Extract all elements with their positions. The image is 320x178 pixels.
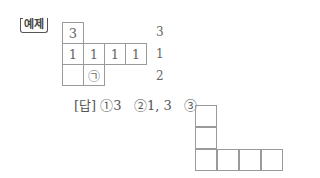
answer-grid-cell [239, 149, 261, 171]
answer-grid-cell [217, 149, 239, 171]
answer-grid-cell [195, 127, 217, 149]
grid-cell [62, 64, 84, 86]
row-label: 3 [156, 25, 164, 39]
answer-grid-cell [195, 149, 217, 171]
answer-line: [답] ①3 ②1, 3 ③ [74, 95, 197, 114]
answer-grid-cell [261, 149, 283, 171]
grid-cell-marked: ㉠ [83, 64, 105, 86]
row-label: 1 [156, 47, 164, 61]
grid-cell: 1 [62, 43, 84, 65]
grid-cell: 1 [104, 43, 126, 65]
grid-cell: 3 [62, 22, 84, 44]
row-label: 2 [156, 69, 164, 83]
answer-part-2: ②1, 3 [134, 98, 172, 113]
grid-cell: 1 [83, 43, 105, 65]
answer-grid-cell [195, 105, 217, 127]
grid-cell: 1 [125, 43, 147, 65]
example-tag: 예제 [20, 18, 48, 33]
answer-part-1: ①3 [100, 98, 121, 113]
answer-label: [답] [74, 98, 96, 113]
